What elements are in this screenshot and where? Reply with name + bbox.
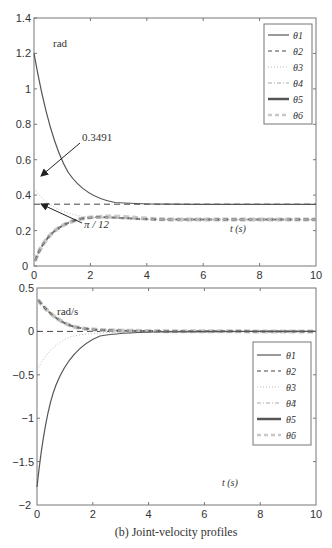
y-unit-label: rad/s bbox=[57, 305, 78, 317]
annotation-pi-over-12: π / 12 bbox=[84, 218, 110, 230]
x-tick: 8 bbox=[257, 508, 263, 520]
x-tick: 6 bbox=[201, 508, 207, 520]
svg-text:θ5: θ5 bbox=[293, 94, 303, 105]
y-tick: 1.4 bbox=[16, 12, 31, 24]
svg-text:θ6: θ6 bbox=[293, 110, 303, 121]
x-tick-labels: 0 2 4 6 8 10 bbox=[34, 508, 322, 520]
x-tick: 0 bbox=[31, 269, 37, 281]
svg-text:θ̇1: θ̇1 bbox=[286, 350, 296, 361]
y-tick: −2 bbox=[18, 499, 31, 511]
y-tick: 0 bbox=[28, 325, 34, 337]
legend: θ1 θ2 θ3 θ4 θ5 θ6 bbox=[264, 24, 312, 124]
joint-velocity-chart: −2 −1.5 −1 −0.5 0 0.5 0 2 4 6 8 10 bbox=[12, 282, 322, 539]
x-tick: 8 bbox=[257, 269, 263, 281]
joint-angle-chart: 0 0.2 0.4 0.6 0.8 1 1.2 1.4 0 2 4 6 8 10 bbox=[16, 12, 322, 300]
y-tick: −1.5 bbox=[12, 456, 34, 468]
y-unit-label: rad bbox=[53, 37, 68, 49]
legend-box bbox=[264, 24, 312, 124]
y-tick: −1 bbox=[21, 412, 34, 424]
y-tick: −0.5 bbox=[12, 369, 34, 381]
svg-text:θ̇3: θ̇3 bbox=[286, 382, 296, 393]
legend: θ̇1 θ̇2 θ̇3 θ̇4 θ̇5 θ̇6 bbox=[253, 342, 311, 445]
annotation-0.3491: 0.3491 bbox=[82, 131, 112, 143]
y-tick: 0.2 bbox=[16, 225, 31, 237]
legend-box bbox=[253, 342, 311, 445]
y-tick-labels: 0 0.2 0.4 0.6 0.8 1 1.2 1.4 bbox=[16, 12, 31, 272]
svg-text:θ̇5: θ̇5 bbox=[286, 414, 296, 425]
x-tick-labels: 0 2 4 6 8 10 bbox=[31, 269, 322, 281]
y-tick: 0 bbox=[22, 260, 28, 272]
x-axis-label: t (s) bbox=[230, 223, 247, 235]
svg-text:θ4: θ4 bbox=[293, 78, 303, 89]
x-tick: 4 bbox=[144, 269, 150, 281]
svg-text:θ3: θ3 bbox=[293, 62, 303, 73]
x-tick: 0 bbox=[34, 508, 40, 520]
y-tick: 1.2 bbox=[16, 47, 31, 59]
svg-text:θ̇2: θ̇2 bbox=[286, 366, 296, 377]
svg-text:θ̇6: θ̇6 bbox=[286, 430, 296, 441]
y-tick-labels: −2 −1.5 −1 −0.5 0 0.5 bbox=[12, 282, 34, 511]
y-tick: 1 bbox=[25, 83, 31, 95]
svg-text:θ̇4: θ̇4 bbox=[286, 398, 296, 409]
x-tick: 6 bbox=[200, 269, 206, 281]
x-axis-label: t (s) bbox=[222, 477, 239, 489]
y-tick: 0.8 bbox=[16, 118, 31, 130]
caption-b: (b) Joint-velocity profiles bbox=[115, 525, 238, 539]
svg-text:θ2: θ2 bbox=[293, 46, 303, 57]
x-tick: 2 bbox=[87, 269, 93, 281]
x-tick: 10 bbox=[310, 508, 322, 520]
figure: 0 0.2 0.4 0.6 0.8 1 1.2 1.4 0 2 4 6 8 10 bbox=[0, 0, 332, 548]
x-tick: 10 bbox=[310, 269, 322, 281]
svg-text:θ1: θ1 bbox=[293, 30, 303, 41]
y-tick: 0.6 bbox=[16, 154, 31, 166]
x-tick: 2 bbox=[90, 508, 96, 520]
y-tick: 0.5 bbox=[19, 282, 34, 294]
y-tick: 0.4 bbox=[16, 189, 31, 201]
x-tick: 4 bbox=[146, 508, 152, 520]
